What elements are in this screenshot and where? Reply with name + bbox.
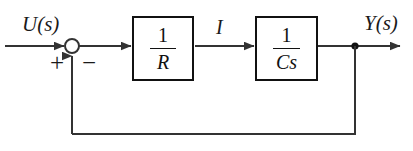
output-signal-label: Y(s) xyxy=(364,13,398,34)
resistor-numerator: 1 xyxy=(155,25,171,46)
summing-junction-plus-sign: + xyxy=(50,50,64,75)
intermediate-signal-label: I xyxy=(216,17,223,37)
capacitor-transfer-function: 1 Cs xyxy=(273,25,300,73)
capacitor-block[interactable]: 1 Cs xyxy=(255,16,318,81)
summing-junction-minus-sign: − xyxy=(82,50,96,75)
resistor-denominator: R xyxy=(154,51,172,72)
block-diagram: U(s) I Y(s) + − 1 R 1 Cs xyxy=(0,0,413,151)
capacitor-denominator: Cs xyxy=(273,51,300,72)
fraction-bar xyxy=(150,48,176,50)
input-signal-label: U(s) xyxy=(22,14,59,35)
resistor-block[interactable]: 1 R xyxy=(132,16,194,81)
resistor-transfer-function: 1 R xyxy=(150,25,176,73)
summing-junction-circle xyxy=(65,39,79,53)
capacitor-numerator: 1 xyxy=(279,25,295,46)
fraction-bar xyxy=(273,48,300,50)
